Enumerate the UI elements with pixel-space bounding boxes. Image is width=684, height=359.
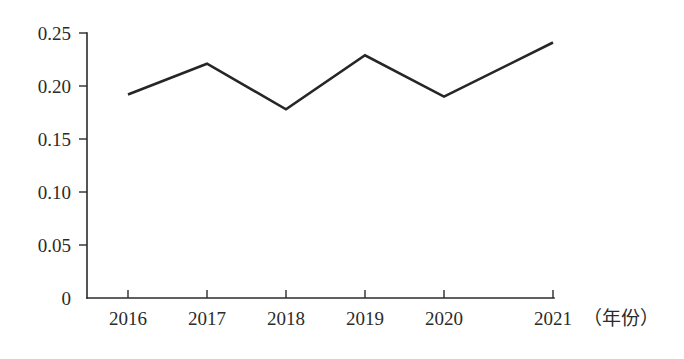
x-axis-caption: （年份） (583, 308, 659, 329)
y-tick-label-005: 0.05 (38, 235, 71, 256)
x-tick-label-2016: 2016 (109, 308, 147, 329)
y-tick-label-0: 0 (62, 288, 72, 309)
chart-canvas: 0.25 0.20 0.15 0.10 0.05 0 2016 2017 201… (0, 0, 684, 359)
x-tick-label-2020: 2020 (425, 308, 463, 329)
x-tick-label-2017: 2017 (188, 308, 226, 329)
y-tick-label-010: 0.10 (38, 182, 71, 203)
x-tick-label-2018: 2018 (267, 308, 305, 329)
line-chart-figure: 0.25 0.20 0.15 0.10 0.05 0 2016 2017 201… (0, 0, 684, 359)
y-tick-label-020: 0.20 (38, 76, 71, 97)
x-tick-label-2019: 2019 (346, 308, 384, 329)
y-tick-label-025: 0.25 (38, 23, 71, 44)
x-tick-label-2021: 2021 (534, 308, 572, 329)
y-tick-label-015: 0.15 (38, 129, 71, 150)
chart-background (0, 0, 684, 359)
